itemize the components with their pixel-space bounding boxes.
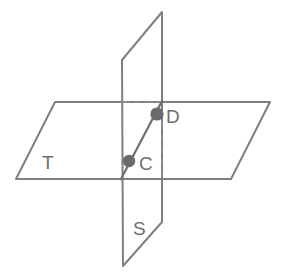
point-c-label: C [139, 153, 153, 174]
geometry-canvas: C D T S [0, 0, 291, 276]
point-c-dot [123, 155, 135, 167]
point-d-dot [150, 107, 163, 120]
plane-s-label: S [133, 218, 146, 239]
geometry-diagram: C D T S [0, 0, 291, 276]
point-d-label: D [166, 106, 180, 127]
plane-t-label: T [42, 152, 54, 173]
